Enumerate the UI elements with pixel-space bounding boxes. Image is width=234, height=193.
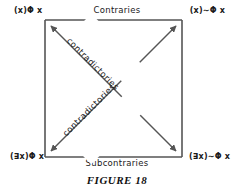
diagram-canvas: contradictories contradictories [0,0,234,193]
figure-caption: FIGURE 18 [0,174,234,186]
square-of-opposition-figure: (x)Φ x (x)∼Φ x (∃x)Φ x (∃x)∼Φ x Contrari… [0,0,234,193]
